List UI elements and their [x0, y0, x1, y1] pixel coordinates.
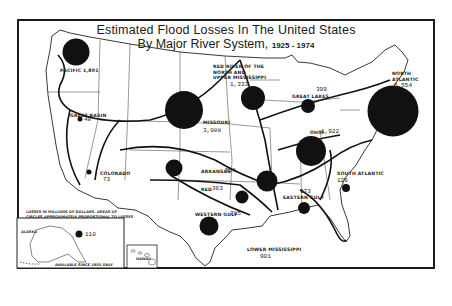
hawaii-label: HAWAII — [136, 257, 151, 262]
label-missouri-name: MISSOURI — [203, 120, 230, 126]
alaska-footnote: AVAILABLE SINCE 1955 ONLY — [55, 263, 113, 268]
label-great-basin-value: 48 — [84, 116, 91, 123]
label-eastern-gulf-name: EASTERN GULF — [283, 195, 324, 201]
label-arkansas-value: 568 — [225, 167, 236, 174]
label-upper-miss-value: 1,333 — [230, 81, 248, 88]
legend-note: LOSSES IN MILLIONS OF DOLLARS. AREAS OFC… — [26, 210, 133, 219]
label-lower-miss-name: LOWER MISSISSIPPI — [247, 247, 301, 253]
label-great-lakes-value: 399 — [316, 86, 327, 93]
region-name-line3: UPPER MISSISSIPPI — [213, 75, 266, 81]
region-value: 1,801 — [83, 68, 99, 73]
region-name-line1: RED RIVER OF THE — [213, 64, 266, 70]
alaska-label: ALASKA — [21, 230, 37, 235]
label-great-lakes-name: GREAT LAKES — [292, 94, 329, 100]
label-lower-miss-value: 901 — [260, 253, 271, 260]
label-south-atlantic-value: 126 — [337, 177, 348, 184]
us-map-outline — [0, 0, 452, 306]
label-north-atlantic-name: NORTHATLANTIC — [392, 71, 418, 82]
label-pacific: PACIFIC 1,801 — [60, 68, 99, 74]
label-eastern-gulf-value: 373 — [300, 188, 311, 195]
region-name: PACIFIC — [60, 68, 81, 73]
label-red-name: RED — [201, 187, 212, 193]
label-western-gulf-value: 785 — [230, 210, 241, 217]
label-alaska-value: 110 — [85, 231, 96, 238]
label-missouri-value: 3,088 — [203, 127, 221, 134]
label-colorado-value: 73 — [103, 176, 110, 183]
legend-note-line2: CIRCLES APPROXIMATELY PROPORTIONAL TO LO… — [26, 215, 133, 220]
label-red-value: 363 — [212, 185, 223, 192]
label-south-atlantic-name: SOUTH ATLANTIC — [337, 171, 384, 177]
label-upper-miss-name: RED RIVER OF THENORTH ANDUPPER MISSISSIP… — [213, 64, 266, 81]
label-north-atlantic-value: 5,554 — [394, 82, 412, 89]
label-ohio-value: 1,922 — [321, 128, 339, 135]
